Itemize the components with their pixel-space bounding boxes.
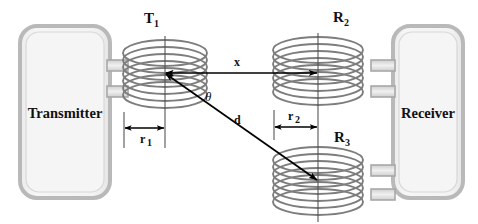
transmitter-label: Transmitter bbox=[28, 105, 103, 121]
coil-label-R2-subscript: 2 bbox=[344, 17, 349, 28]
receiver-label: Receiver bbox=[401, 105, 455, 121]
receiver-tab-r2-top bbox=[371, 60, 395, 71]
coil-label-R3-letter: R bbox=[334, 129, 345, 145]
dimension-r2-letter: r bbox=[288, 109, 294, 123]
receiver-block: Receiver bbox=[393, 26, 463, 198]
coil-label-R2-letter: R bbox=[333, 9, 344, 25]
receiver-tab-r3-top bbox=[371, 165, 395, 176]
dimension-theta-label: θ bbox=[205, 89, 212, 104]
coil-label-T1-subscript: 1 bbox=[154, 18, 159, 29]
receiver-tab-r2-bottom bbox=[371, 86, 395, 97]
coil-label-T1: T 1 bbox=[144, 10, 159, 29]
dimension-r2: r 2 bbox=[274, 109, 317, 140]
transmitter-block: Transmitter bbox=[20, 26, 110, 198]
coil-geometry-diagram: Transmitter Receiver bbox=[0, 0, 478, 224]
dimension-d-label: d bbox=[234, 113, 241, 127]
dimension-r2-subscript: 2 bbox=[295, 114, 300, 125]
coil-label-R3-subscript: 3 bbox=[345, 137, 350, 148]
receiver-tab-r3-bottom bbox=[371, 189, 395, 200]
coil-label-R2: R 2 bbox=[333, 9, 349, 28]
dimension-x-label: x bbox=[234, 55, 240, 69]
coil-label-T1-letter: T bbox=[144, 10, 154, 26]
dimension-theta: θ bbox=[205, 89, 212, 104]
diagram-canvas: Transmitter Receiver bbox=[0, 0, 478, 224]
coil-label-R3: R 3 bbox=[334, 129, 350, 148]
dimension-r1-letter: r bbox=[140, 132, 146, 146]
dimension-r1: r 1 bbox=[124, 112, 164, 148]
dimension-r1-subscript: 1 bbox=[147, 137, 152, 148]
